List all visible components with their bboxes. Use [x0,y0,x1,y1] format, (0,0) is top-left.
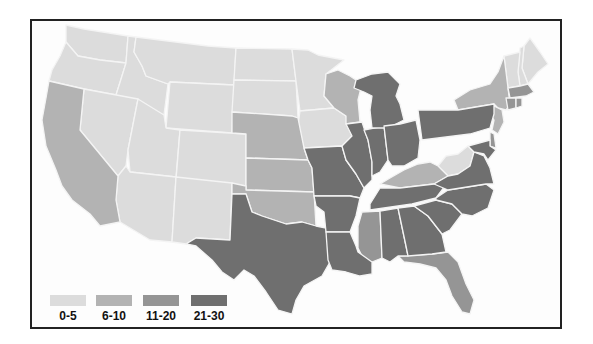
legend-swatch [143,295,179,306]
state-ks [246,158,314,192]
legend-item-6-10: 6-10 [96,295,132,323]
state-ri [516,98,522,108]
state-mi [354,72,404,128]
legend-item-0-5: 0-5 [50,295,86,323]
us-choropleth-map [0,0,593,344]
legend-swatch [191,295,227,306]
legend-label: 11-20 [137,309,185,323]
state-nm [172,177,232,244]
legend-label: 6-10 [90,309,138,323]
state-de [490,132,496,148]
legend-item-11-20: 11-20 [143,295,179,323]
state-ct [506,98,516,110]
state-nd [234,48,296,81]
legend-label: 21-30 [185,309,233,323]
state-az [116,166,176,242]
legend-label: 0-5 [44,309,92,323]
state-oh [384,120,420,166]
state-wy [166,82,234,133]
state-ny [454,56,510,110]
state-pa [418,104,494,140]
legend-swatch [50,295,86,306]
legend-swatch [96,295,132,306]
legend-item-21-30: 21-30 [191,295,227,323]
state-mt [134,37,236,85]
state-fl [398,252,474,314]
